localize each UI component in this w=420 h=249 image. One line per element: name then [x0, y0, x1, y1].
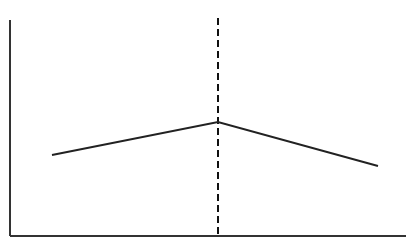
chart-container — [0, 0, 420, 249]
data-series-line — [52, 122, 378, 166]
line-chart — [0, 0, 420, 249]
